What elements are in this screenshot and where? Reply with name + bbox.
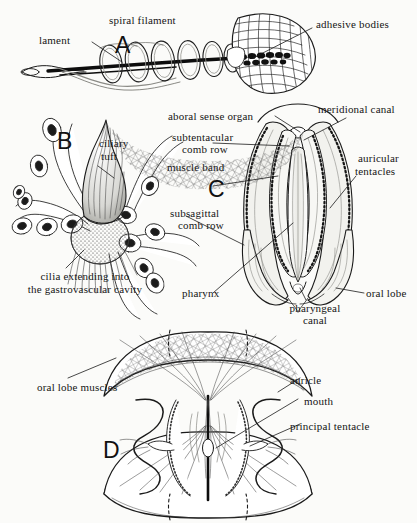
panel-letter-d: D bbox=[103, 437, 120, 464]
label-pharyngeal-line1: pharyngeal bbox=[272, 302, 358, 315]
label-spiral-filament: spiral filament bbox=[109, 14, 176, 27]
label-auricle: auricle bbox=[290, 374, 321, 387]
label-cilia-line2: the gastrovascular cavity bbox=[5, 283, 165, 296]
label-auricular-line1: auricular bbox=[358, 152, 399, 165]
label-oral-lobe-muscles: oral lobe muscles bbox=[37, 381, 117, 394]
panel-letter-c: C bbox=[208, 176, 225, 203]
label-meridional-canal: meridional canal bbox=[318, 103, 395, 116]
label-principal-tentacle: principal tentacle bbox=[290, 420, 370, 433]
label-muscle-band: muscle band bbox=[167, 161, 225, 174]
panel-letter-a: A bbox=[115, 32, 130, 59]
label-pharyngeal-line2: canal bbox=[272, 314, 358, 327]
label-adhesive-bodies: adhesive bodies bbox=[316, 18, 389, 31]
label-lament: lament bbox=[39, 34, 70, 47]
label-subtentacular-line2: comb row bbox=[182, 143, 228, 156]
figure-plate: A lament spiral filament adhesive bodies… bbox=[0, 0, 417, 523]
label-cilia-line1: cilia extending into bbox=[10, 270, 160, 283]
label-pharynx: pharynx bbox=[182, 287, 219, 300]
label-ciliary-tuft-line2: tuft bbox=[101, 150, 117, 163]
label-subsagittal-line2: comb row bbox=[178, 219, 224, 232]
label-oral-lobe: oral lobe bbox=[366, 287, 407, 300]
label-ciliary-tuft-line1: ciliary bbox=[99, 137, 129, 150]
panel-letter-b: B bbox=[57, 128, 72, 155]
illustration-canvas bbox=[0, 0, 417, 523]
panel-c-artwork bbox=[243, 104, 354, 312]
label-mouth: mouth bbox=[304, 395, 333, 408]
label-auricular-line2: tentacles bbox=[355, 165, 395, 178]
label-subtentacular-line1: subtentacular bbox=[172, 131, 233, 144]
label-subsagittal-line1: subsagittal bbox=[170, 207, 219, 220]
label-aboral-sense-organ: aboral sense organ bbox=[168, 110, 253, 123]
